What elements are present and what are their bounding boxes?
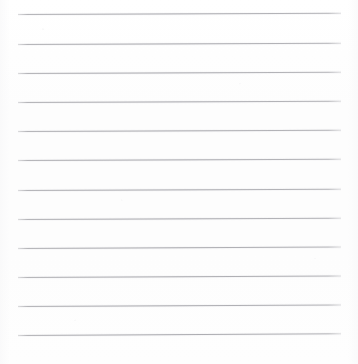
ruled-lines-layer (0, 0, 358, 364)
scanned-paper-page (0, 0, 358, 364)
